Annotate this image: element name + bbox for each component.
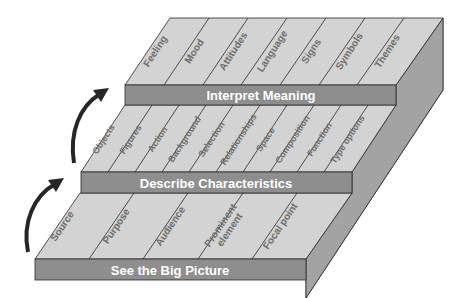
tier-2-label: Describe Characteristics xyxy=(140,176,292,191)
tier-1-top-face xyxy=(35,193,352,259)
pyramid-diagram: Source Purpose Audience Prominent elemen… xyxy=(0,0,468,298)
tier-3-label: Interpret Meaning xyxy=(206,88,315,103)
tier-1-label: See the Big Picture xyxy=(111,263,229,278)
tier-3-top-face xyxy=(125,18,443,85)
